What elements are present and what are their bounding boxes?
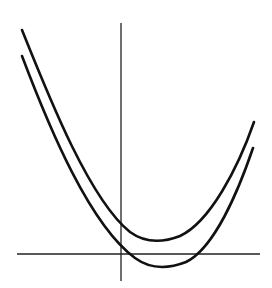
upper-parabola-curve xyxy=(22,30,254,241)
parabola-diagram xyxy=(0,0,272,288)
diagram-canvas xyxy=(0,0,272,288)
